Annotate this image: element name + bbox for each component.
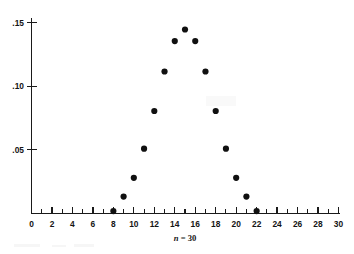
x-axis-tick-label: 10 [129, 219, 139, 229]
data-point [254, 208, 260, 214]
x-axis-tick-label: 2 [50, 219, 55, 229]
x-axis-tick-label: 30 [334, 219, 344, 229]
data-point [213, 108, 219, 114]
data-point [223, 146, 229, 152]
y-axis-label-group: .05.10.15 [12, 18, 24, 155]
x-axis-tick-label: 18 [211, 219, 221, 229]
data-point [121, 193, 127, 199]
data-point [141, 146, 147, 152]
data-point [151, 108, 157, 114]
x-axis-tick-label: 0 [29, 219, 34, 229]
x-axis-tick-label: 6 [91, 219, 96, 229]
x-axis-caption: n = 30 [174, 233, 197, 243]
x-axis-tick-label: 24 [272, 219, 282, 229]
data-point [172, 38, 178, 44]
x-axis-tick-label: 16 [191, 219, 201, 229]
data-point [233, 175, 239, 181]
scatter-plot-canvas: .05.10.15 024681012141618202224262830 n … [0, 0, 354, 254]
y-axis-tick-label: .10 [12, 81, 24, 91]
x-axis-tick-label: 14 [170, 219, 180, 229]
data-point [110, 208, 116, 214]
data-point [202, 68, 208, 74]
x-axis-caption-value: = 30 [178, 233, 196, 243]
data-point [161, 68, 167, 74]
data-point [243, 193, 249, 199]
y-axis-tick-label: .05 [12, 145, 24, 155]
data-point [192, 38, 198, 44]
data-point-group [110, 26, 259, 214]
chart-figure: .05.10.15 024681012141618202224262830 n … [0, 0, 354, 254]
x-axis-tick-label: 4 [70, 219, 75, 229]
x-axis-tick-label: 20 [232, 219, 242, 229]
x-axis-tick-label: 28 [313, 219, 323, 229]
x-axis-label-group: 024681012141618202224262830 [29, 219, 343, 229]
y-axis-tick-label: .15 [12, 18, 24, 28]
x-axis-tick-label: 12 [150, 219, 160, 229]
data-point [131, 175, 137, 181]
x-axis-tick-label: 26 [293, 219, 303, 229]
x-axis-tick-label: 8 [111, 219, 116, 229]
data-point [182, 26, 188, 32]
x-axis-tick-label: 22 [252, 219, 262, 229]
